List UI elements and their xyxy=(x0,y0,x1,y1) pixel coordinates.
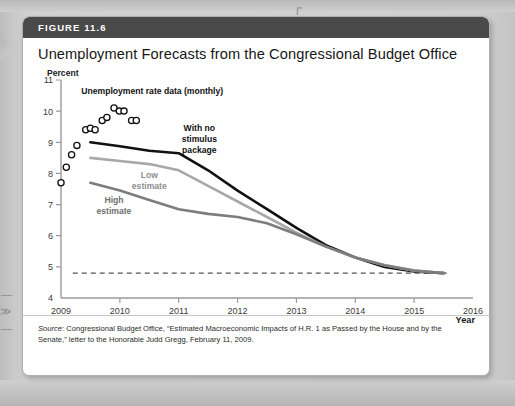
y-tick-label: 9 xyxy=(48,138,53,148)
figure-number-label: FIGURE 11.6 xyxy=(38,22,107,33)
source-divider xyxy=(23,315,489,316)
source-label: Source: xyxy=(38,324,64,333)
y-tick-label: 5 xyxy=(48,262,53,272)
source-text: Congressional Budget Office, “Estimated … xyxy=(38,324,442,344)
chart-area: Percent Year 456789101120092010201120122… xyxy=(23,62,489,338)
scatter-point xyxy=(63,164,69,170)
pencil-mark-left-2: ≫ xyxy=(0,306,12,317)
chart-annotation: estimate xyxy=(132,181,167,191)
chart-annotation: High xyxy=(104,195,123,205)
figure-card: FIGURE 11.6 Unemployment Forecasts from … xyxy=(22,16,490,376)
scatter-point xyxy=(69,152,75,158)
scatter-point xyxy=(133,117,139,123)
y-tick-label: 6 xyxy=(48,231,53,241)
scatter-point xyxy=(92,127,98,133)
chart-annotation: estimate xyxy=(97,206,132,216)
series-line xyxy=(90,183,443,273)
pencil-mark-left-1: — xyxy=(1,289,12,300)
chart-annotation: package xyxy=(182,145,217,155)
chart-annotation: With no xyxy=(184,123,215,133)
chart-annotation: stimulus xyxy=(182,134,218,144)
scatter-point xyxy=(58,180,64,186)
pencil-mark-left-3: — xyxy=(1,323,12,334)
chart-annotation: Unemployment rate data (monthly) xyxy=(81,86,223,96)
scatter-point xyxy=(121,108,127,114)
y-tick-label: 10 xyxy=(43,107,53,117)
chart-annotation: Low xyxy=(141,170,158,180)
figure-title: Unemployment Forecasts from the Congress… xyxy=(38,46,489,62)
figure-banner: FIGURE 11.6 xyxy=(23,17,489,38)
y-tick-label: 8 xyxy=(48,169,53,179)
source-note: Source: Congressional Budget Office, “Es… xyxy=(38,323,470,346)
y-tick-label: 4 xyxy=(48,293,53,303)
scatter-point xyxy=(104,114,110,120)
series-line xyxy=(90,142,443,273)
y-tick-label: 11 xyxy=(44,75,53,85)
y-tick-label: 7 xyxy=(48,200,53,210)
chart-svg: 4567891011200920102011201220132014201520… xyxy=(23,62,489,338)
scatter-point xyxy=(74,142,80,148)
